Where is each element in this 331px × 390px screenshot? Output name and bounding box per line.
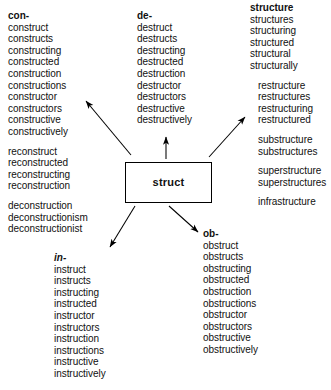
word-item: structuring [250, 25, 326, 37]
word-item: destructively [137, 114, 192, 126]
word-item: constructive [8, 114, 88, 126]
word-column-ob: ob- obstruct obstructs obstructing obstr… [203, 228, 258, 356]
word-family-diagram: con- construct constructs constructing c… [0, 0, 331, 390]
word-item: obstructive [203, 332, 258, 344]
word-item: structural [250, 48, 326, 60]
word-group: reconstruct reconstructed reconstructing… [8, 146, 88, 192]
word-group: construct constructs constructing constr… [8, 22, 88, 138]
word-item: deconstructionist [8, 223, 88, 235]
word-column-de: de- destruct destructs destructing destr… [137, 10, 192, 126]
word-item: obstructors [203, 321, 258, 333]
word-item: structurally [250, 60, 326, 72]
word-column-con: con- construct constructs constructing c… [8, 10, 88, 235]
word-item: constructors [8, 103, 88, 115]
word-item: deconstructionism [8, 212, 88, 224]
word-item: restructured [258, 114, 326, 126]
word-item: constructor [8, 91, 88, 103]
word-item: obstruct [203, 240, 258, 252]
word-item: instruct [54, 264, 106, 276]
word-item: obstruction [203, 286, 258, 298]
word-item: instructed [54, 298, 106, 310]
word-item: substructure [258, 134, 326, 146]
column-heading-in: in- [54, 252, 106, 264]
word-group: infrastructure [250, 196, 326, 208]
word-item: constructions [8, 80, 88, 92]
word-group: deconstruction deconstructionism deconst… [8, 200, 88, 235]
word-item: obstructing [203, 263, 258, 275]
word-item: reconstructed [8, 157, 88, 169]
word-item: structures [250, 14, 326, 26]
word-item: destructing [137, 45, 192, 57]
word-item: reconstruct [8, 146, 88, 158]
word-item: obstructs [203, 251, 258, 263]
word-item: instructions [54, 345, 106, 357]
word-group: structures structuring structured struct… [250, 14, 326, 72]
word-item: construction [8, 68, 88, 80]
word-item: constructively [8, 126, 88, 138]
word-item: destructive [137, 103, 192, 115]
word-item: infrastructure [258, 196, 326, 208]
word-item: restructuring [258, 103, 326, 115]
word-item: destruction [137, 68, 192, 80]
word-item: constructed [8, 56, 88, 68]
word-item: instructor [54, 310, 106, 322]
word-item: destructed [137, 56, 192, 68]
word-item: destructs [137, 33, 192, 45]
word-item: restructure [258, 80, 326, 92]
word-item: destructor [137, 80, 192, 92]
word-group: superstructure superstructures [250, 165, 326, 188]
word-item: restructures [258, 91, 326, 103]
word-item: superstructure [258, 165, 326, 177]
word-group: restructure restructures restructuring r… [250, 80, 326, 126]
word-group: instruct instructs instructing instructe… [54, 264, 106, 380]
arrow-to-structure [209, 117, 245, 157]
column-heading-structure: structure [250, 2, 326, 14]
word-item: substructures [258, 146, 326, 158]
word-item: deconstruction [8, 200, 88, 212]
column-heading-de: de- [137, 10, 192, 22]
root-word-box: struct [125, 162, 212, 203]
word-item: destructors [137, 91, 192, 103]
word-group: substructure substructures [250, 134, 326, 157]
arrow-to-in [110, 206, 135, 247]
word-group: destruct destructs destructing destructe… [137, 22, 192, 126]
arrow-to-con [86, 101, 131, 155]
word-item: structured [250, 37, 326, 49]
word-item: obstructions [203, 298, 258, 310]
word-item: instruction [54, 333, 106, 345]
root-word-label: struct [153, 177, 185, 189]
word-item: constructing [8, 45, 88, 57]
word-item: reconstructing [8, 169, 88, 181]
column-heading-con: con- [8, 10, 88, 22]
word-group: obstruct obstructs obstructing obstructe… [203, 240, 258, 356]
word-column-structure: structure structures structuring structu… [250, 2, 326, 208]
word-item: constructs [8, 33, 88, 45]
word-item: instructors [54, 322, 106, 334]
word-item: obstructively [203, 344, 258, 356]
column-heading-ob: ob- [203, 228, 258, 240]
word-item: instructing [54, 287, 106, 299]
word-item: instructive [54, 356, 106, 368]
arrow-to-ob [169, 206, 198, 232]
word-item: reconstruction [8, 180, 88, 192]
word-item: instructively [54, 368, 106, 380]
word-column-in: in- instruct instructs instructing instr… [54, 252, 106, 380]
word-item: superstructures [258, 177, 326, 189]
word-item: instructs [54, 275, 106, 287]
word-item: obstructed [203, 274, 258, 286]
word-item: obstructor [203, 309, 258, 321]
word-item: destruct [137, 22, 192, 34]
word-item: construct [8, 22, 88, 34]
